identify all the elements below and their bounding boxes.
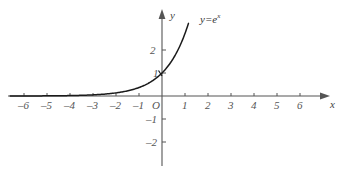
x-tick-label-4: 4 [251, 100, 257, 111]
x-tick-label-3: 3 [228, 100, 234, 111]
x-tick-label-2: 2 [205, 100, 211, 111]
y-axis-name-label: y [170, 10, 175, 21]
curve-equation-exponent: x [217, 12, 220, 20]
exponential-function-graph: –6 –5 –4 –3 –2 –1 O 1 2 3 4 5 6 2 1 –1 –… [0, 0, 342, 172]
x-tick-label-neg4: –4 [64, 100, 75, 111]
y-tick-label-neg1: –1 [146, 114, 157, 125]
x-tick-label-5: 5 [274, 100, 280, 111]
x-tick-label-neg6: –6 [18, 100, 29, 111]
x-tick-label-neg5: –5 [41, 100, 52, 111]
x-tick-label-neg3: –3 [87, 100, 98, 111]
curve-equation-label: y=ex [200, 14, 220, 25]
y-tick-label-neg2: –2 [146, 137, 157, 148]
origin-label: O [152, 100, 160, 111]
plot-canvas [0, 0, 342, 172]
x-tick-label-1: 1 [182, 100, 188, 111]
curve-equation-base: y=e [200, 13, 217, 25]
x-tick-label-neg1: –1 [133, 100, 144, 111]
x-axis-name-label: x [330, 99, 335, 110]
x-tick-label-6: 6 [297, 100, 303, 111]
y-tick-label-1: 1 [153, 68, 159, 79]
x-tick-label-neg2: –2 [110, 100, 121, 111]
y-tick-label-2: 2 [150, 45, 156, 56]
